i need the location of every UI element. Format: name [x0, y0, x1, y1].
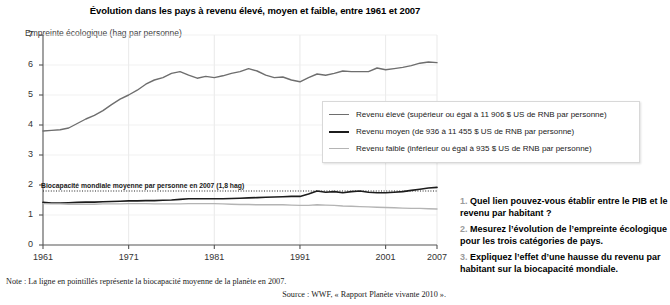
legend-item-high-income: Revenu élevé (supérieur ou égal à 11 906… [329, 106, 633, 123]
y-tick-label: 2 [17, 179, 33, 189]
x-tick-label: 2001 [366, 252, 406, 262]
y-tick-label: 7 [17, 29, 33, 39]
question-item: 3. Expliquez l’effet d’une hausse du rev… [460, 252, 668, 275]
question-item: 1. Quel lien pouvez-vous établir entre l… [460, 196, 668, 219]
chart-figure: Évolution dans les pays à revenu élevé, … [0, 0, 452, 305]
questions-panel: 1. Quel lien pouvez-vous établir entre l… [460, 196, 668, 281]
question-item: 2. Mesurez l’évolution de l’empreinte éc… [460, 224, 668, 247]
y-tick-label: 4 [17, 119, 33, 129]
y-tick-label: 1 [17, 209, 33, 219]
question-number: 1. [460, 196, 468, 206]
legend-label-low-income: Revenu faible (inférieur ou égal à 935 $… [356, 144, 592, 153]
legend-item-middle-income: Revenu moyen (de 936 à 11 455 $ US de RN… [329, 123, 633, 140]
legend-item-low-income: Revenu faible (inférieur ou égal à 935 $… [329, 140, 633, 157]
question-text: Quel lien pouvez-vous établir entre le P… [460, 196, 668, 218]
legend-swatch-high-income [329, 114, 349, 115]
chart-note: Note : La ligne en pointillés représente… [6, 277, 286, 286]
y-tick-label: 6 [17, 59, 33, 69]
legend-label-middle-income: Revenu moyen (de 936 à 11 455 $ US de RN… [356, 127, 574, 136]
question-number: 2. [460, 224, 468, 234]
legend-label-high-income: Revenu élevé (supérieur ou égal à 11 906… [356, 110, 607, 119]
legend-swatch-low-income [329, 148, 349, 149]
x-tick-label: 1991 [280, 252, 320, 262]
biocapacity-annotation: Biocapacité mondiale moyenne par personn… [41, 182, 244, 189]
x-tick-label: 1971 [109, 252, 149, 262]
x-tick-label: 1981 [194, 252, 234, 262]
question-text: Mesurez l’évolution de l’empreinte écolo… [460, 224, 667, 246]
x-tick-label: 2007 [417, 252, 457, 262]
y-tick-label: 0 [17, 239, 33, 249]
chart-source: Source : WWF, « Rapport Planète vivante … [0, 290, 446, 299]
y-tick-label: 3 [17, 149, 33, 159]
x-tick-label: 1961 [23, 252, 63, 262]
question-text: Expliquez l’effet d’une hausse du revenu… [460, 252, 661, 274]
chart-legend: Revenu élevé (supérieur ou égal à 11 906… [322, 101, 640, 163]
legend-swatch-middle-income [329, 131, 349, 133]
y-tick-label: 5 [17, 89, 33, 99]
question-number: 3. [460, 252, 468, 262]
